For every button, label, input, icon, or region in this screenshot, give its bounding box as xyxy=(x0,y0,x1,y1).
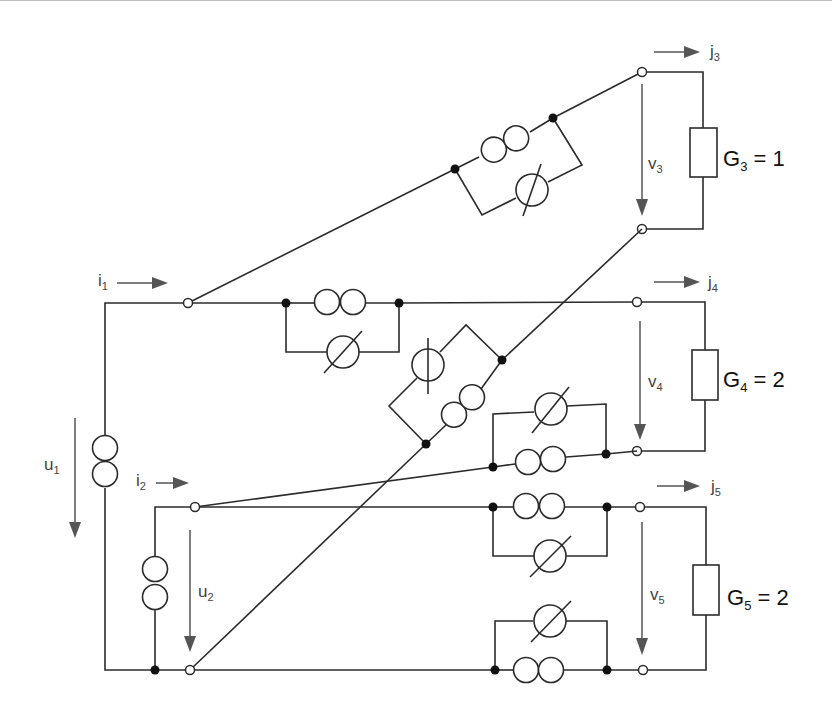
terminal-u2-bottom xyxy=(186,666,195,675)
voltage-source-u2 xyxy=(143,507,196,670)
label-i1: i1 xyxy=(98,272,108,292)
label-u2: u2 xyxy=(198,583,214,603)
arrow-v4 xyxy=(634,321,646,440)
arrow-i1 xyxy=(117,277,168,289)
label-G3: G3 = 1 xyxy=(723,148,785,173)
output-port-3 xyxy=(638,68,718,234)
terminal-j5-bottom xyxy=(639,666,648,675)
arrow-j5 xyxy=(657,480,700,492)
output-port-5 xyxy=(636,503,720,671)
label-i2: i2 xyxy=(136,472,146,492)
arrow-j4 xyxy=(654,276,700,288)
label-j4: j4 xyxy=(708,274,718,294)
terminal-j4-top xyxy=(633,298,642,307)
terminal-i1 xyxy=(184,299,193,308)
branch-to-j3 xyxy=(188,72,642,303)
arrow-i2 xyxy=(156,477,189,489)
label-u1: u1 xyxy=(44,456,60,476)
junction-bottom-left xyxy=(151,666,160,675)
output-port-4 xyxy=(633,298,719,456)
arrow-j3 xyxy=(654,46,700,58)
arrow-u1 xyxy=(69,418,81,538)
terminal-i2 xyxy=(191,503,200,512)
branch-to-v5-bottom xyxy=(491,601,648,683)
label-j5: j5 xyxy=(711,478,721,498)
label-v4: v4 xyxy=(648,373,663,393)
branch-to-j5 xyxy=(195,494,640,578)
label-v5: v5 xyxy=(650,586,665,606)
branch-to-v4-bottom xyxy=(195,387,637,507)
terminal-j5-top xyxy=(636,503,645,512)
label-G5: G5 = 2 xyxy=(727,587,789,612)
label-G4: G4 = 2 xyxy=(723,369,785,394)
label-j3: j3 xyxy=(710,43,720,63)
voltage-source-u1 xyxy=(93,436,118,487)
arrow-v3 xyxy=(636,84,648,216)
arrow-u2 xyxy=(184,530,196,652)
branch-diagonal-cross xyxy=(190,229,642,670)
arrow-v5 xyxy=(636,522,648,655)
terminal-j3-top xyxy=(638,68,647,77)
label-v3: v3 xyxy=(648,155,663,175)
circuit-schematic xyxy=(0,0,832,716)
